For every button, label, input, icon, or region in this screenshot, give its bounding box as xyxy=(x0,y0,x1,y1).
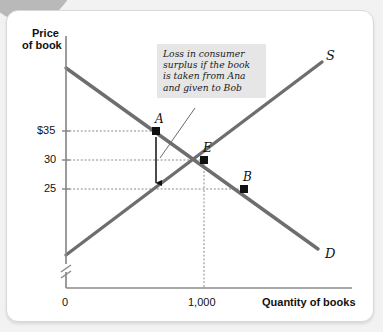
point-label-e: E xyxy=(203,141,212,155)
x-origin-label: 0 xyxy=(62,296,68,308)
point-marker-b xyxy=(240,185,248,193)
x-axis-title: Quantity of books xyxy=(262,296,356,308)
demand-curve-label: D xyxy=(325,246,335,261)
supply-curve-label: S xyxy=(326,48,335,63)
y-axis-title-line2: of book xyxy=(22,39,62,51)
y-tick-label-35: $35 xyxy=(37,124,55,136)
x-tick-label-1000: 1,000 xyxy=(188,296,216,308)
point-label-b: B xyxy=(243,170,252,184)
y-tick-label-25: 25 xyxy=(44,182,56,194)
y-axis-title-line1: Price xyxy=(32,27,59,39)
annotation-callout: Loss in consumer surplus if the book is … xyxy=(157,44,266,98)
figure-root: Price of book $35 30 25 0 1,000 Quantity… xyxy=(0,0,383,332)
y-tick-label-30: 30 xyxy=(44,153,56,165)
point-label-a: A xyxy=(155,112,164,126)
point-marker-a xyxy=(152,127,160,135)
point-marker-e xyxy=(200,156,208,164)
dotted-guides xyxy=(66,131,244,288)
callout-leader-line xyxy=(160,108,195,158)
